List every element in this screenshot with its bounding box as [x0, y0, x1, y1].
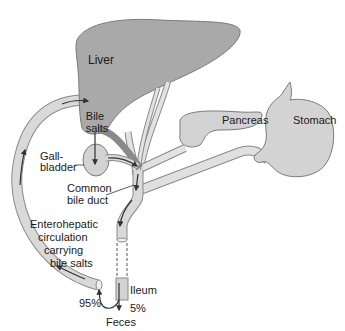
liver-label: Liver: [88, 54, 114, 66]
ileum: [116, 278, 128, 300]
stomach-label: Stomach: [293, 114, 336, 126]
circulation-label-4: bile salts: [50, 257, 93, 269]
bile-salts-label-1: Bile: [84, 110, 106, 122]
stomach: [254, 82, 333, 177]
pancreas-label: Pancreas: [222, 114, 268, 126]
excreted-percentage: 5%: [130, 302, 146, 314]
pancreatic-duct: [142, 148, 185, 168]
intestine-dashed: [117, 243, 127, 278]
feces-label: Feces: [106, 316, 136, 328]
gallbladder-label-2: bladder: [40, 161, 77, 173]
common-bile-duct-label-2: bile duct: [67, 194, 108, 206]
common-bile-duct-label-1: Common: [67, 182, 112, 194]
circulation-label-3: carrying: [44, 244, 83, 256]
circulation-label-2: circulation: [38, 231, 88, 243]
reabsorbed-percentage: 95%: [79, 297, 101, 309]
ileum-label: Ileum: [130, 284, 157, 296]
bile-salts-label-2: salts: [84, 122, 110, 134]
circulation-label-1: Enterohepatic: [30, 218, 98, 230]
